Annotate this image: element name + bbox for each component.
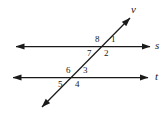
angle-label-5: 5 <box>58 80 63 89</box>
angle-label-3: 3 <box>83 66 88 75</box>
line-label-t: t <box>155 71 158 82</box>
angle-label-1: 1 <box>111 35 116 44</box>
geometry-diagram: 1 2 3 4 5 6 7 8 s t v <box>0 0 167 118</box>
angle-label-4: 4 <box>75 80 80 89</box>
line-label-v: v <box>131 4 136 15</box>
line-label-s: s <box>155 40 159 51</box>
angle-label-2: 2 <box>104 49 109 58</box>
angle-label-6: 6 <box>66 66 71 75</box>
diagram-canvas <box>0 0 167 118</box>
angle-label-7: 7 <box>87 49 92 58</box>
line-v-stroke <box>42 18 130 107</box>
angle-label-8: 8 <box>95 35 100 44</box>
